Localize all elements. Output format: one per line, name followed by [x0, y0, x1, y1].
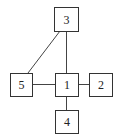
node-3: 3: [55, 8, 79, 32]
node-3-label: 3: [64, 13, 70, 27]
node-1-label: 1: [64, 78, 70, 92]
node-2-label: 2: [98, 78, 104, 92]
node-4: 4: [56, 111, 79, 134]
node-4-label: 4: [64, 115, 70, 129]
node-5: 5: [11, 74, 33, 97]
node-2: 2: [90, 74, 113, 97]
edge-3-5: [28, 31, 60, 73]
node-1: 1: [56, 74, 79, 97]
node-5-label: 5: [19, 78, 25, 92]
graph-diagram: 3 5 1 2 4: [0, 0, 119, 140]
